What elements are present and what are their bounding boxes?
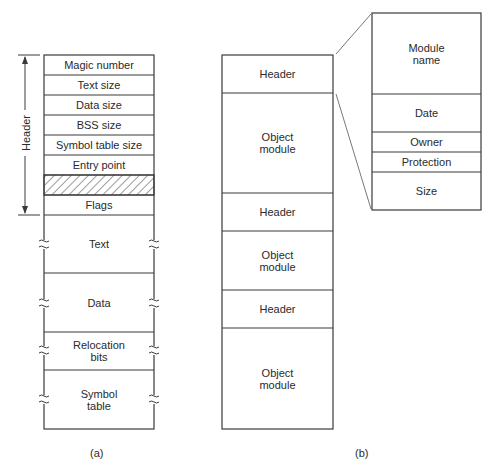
row-label: Object module xyxy=(259,249,295,273)
row-label: Module name xyxy=(408,42,444,66)
header-brace-label: Header xyxy=(20,110,32,156)
row-size: Size xyxy=(372,172,481,210)
row-data-size: Data size xyxy=(44,95,154,115)
row-label: Data xyxy=(87,297,110,309)
caption-b: (b) xyxy=(355,447,368,459)
row-label: Flags xyxy=(86,199,113,211)
row-label: Data size xyxy=(76,99,122,111)
row-owner: Owner xyxy=(372,132,481,152)
row-label: Text xyxy=(89,238,109,250)
zoom-connector-lines xyxy=(336,14,371,209)
row-magic-number: Magic number xyxy=(44,55,154,75)
row-label: Object module xyxy=(259,131,295,155)
row-label: Symbol table xyxy=(81,388,118,412)
row-text: Text xyxy=(44,215,154,273)
row-object-module-3: Object module xyxy=(222,328,333,429)
row-flags: Flags xyxy=(44,195,154,215)
row-label: Date xyxy=(415,107,438,119)
row-label: Text size xyxy=(78,79,121,91)
row-label: Magic number xyxy=(64,59,134,71)
row-data: Data xyxy=(44,273,154,332)
row-header-1: Header xyxy=(222,55,333,93)
row-relocation-bits: Relocation bits xyxy=(44,332,154,370)
row-label: Symbol table size xyxy=(56,139,142,151)
row-entry-point: Entry point xyxy=(44,155,154,175)
row-label: BSS size xyxy=(77,119,122,131)
row-label: Header xyxy=(259,68,295,80)
row-label: Entry point xyxy=(73,159,126,171)
row-object-module-1: Object module xyxy=(222,93,333,193)
row-label: Protection xyxy=(402,156,452,168)
row-bss-size: BSS size xyxy=(44,115,154,135)
row-header-3: Header xyxy=(222,290,333,328)
row-label: Header xyxy=(259,206,295,218)
row-text-size: Text size xyxy=(44,75,154,95)
row-label: Header xyxy=(259,303,295,315)
row-symbol-table: Symbol table xyxy=(44,370,154,429)
row-object-module-2: Object module xyxy=(222,231,333,290)
row-label: Relocation bits xyxy=(73,339,125,363)
row-symbol-table-size: Symbol table size xyxy=(44,135,154,155)
row-date: Date xyxy=(372,94,481,132)
object-file-format-diagram: Magic number Text size Data size BSS siz… xyxy=(0,0,497,473)
row-label: Size xyxy=(416,185,437,197)
caption-a: (a) xyxy=(90,447,103,459)
row-label: Object module xyxy=(259,367,295,391)
row-protection: Protection xyxy=(372,152,481,172)
row-header-2: Header xyxy=(222,193,333,231)
row-reserved-hatched xyxy=(44,175,154,195)
row-module-name: Module name xyxy=(372,13,481,94)
row-label: Owner xyxy=(410,136,442,148)
